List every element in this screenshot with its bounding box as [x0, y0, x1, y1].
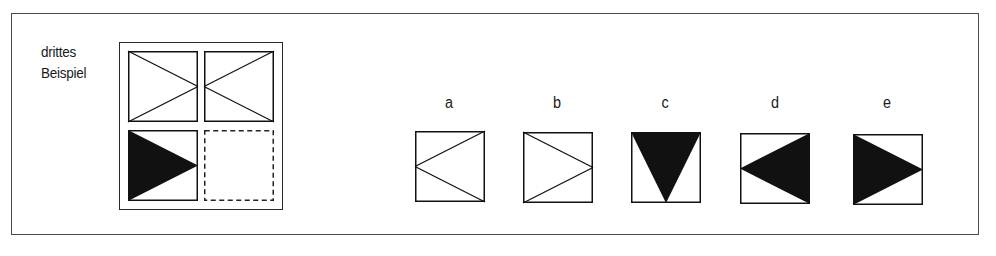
crossed-lines-icon: [204, 51, 274, 122]
option-label-b: b: [548, 94, 566, 112]
filled-triangle-left-icon: [740, 133, 810, 204]
option-b[interactable]: [523, 132, 593, 203]
option-d[interactable]: [740, 133, 810, 204]
option-label-e: e: [878, 94, 896, 112]
option-c[interactable]: [631, 132, 701, 203]
filled-triangle-right-icon: [853, 134, 923, 205]
dashed-placeholder-icon: [204, 130, 274, 201]
filled-triangle-right-icon: [128, 130, 198, 201]
matrix-cell-missing: [204, 130, 274, 201]
option-e[interactable]: [853, 134, 923, 205]
option-a[interactable]: [415, 131, 485, 202]
example-label: drittes Beispiel: [41, 41, 86, 83]
option-label-c: c: [656, 94, 674, 112]
filled-triangle-down-icon: [631, 132, 701, 203]
matrix-cell-top-left: [128, 51, 198, 122]
crossed-lines-icon: [128, 51, 198, 122]
triangle-outline-right-icon: [523, 132, 593, 203]
example-label-line1: drittes: [41, 41, 86, 62]
option-label-d: d: [766, 94, 784, 112]
triangle-outline-left-icon: [415, 131, 485, 202]
matrix-cell-bottom-left: [128, 130, 198, 201]
matrix-cell-top-right: [204, 51, 274, 122]
option-label-a: a: [440, 94, 458, 112]
example-label-line2: Beispiel: [41, 62, 86, 83]
